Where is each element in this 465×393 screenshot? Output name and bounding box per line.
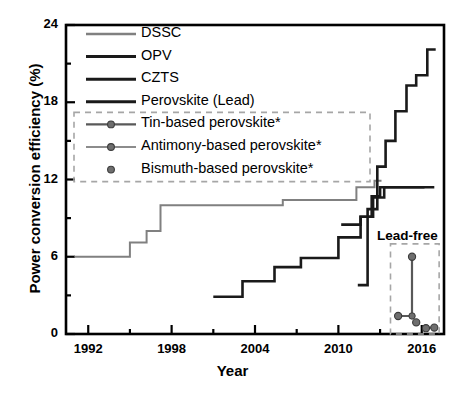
lead-free-annotation: Lead-free <box>377 228 438 243</box>
data-point-marker <box>395 312 402 319</box>
chart-figure: Power conversion efficiency (%) Year Lea… <box>0 0 465 393</box>
y-tick-label: 6 <box>14 248 58 263</box>
x-tick-label: 2010 <box>298 341 378 356</box>
legend-marker-5 <box>108 144 115 151</box>
plot-canvas <box>0 0 465 393</box>
legend-label-1: OPV <box>141 47 172 63</box>
legend-label-2: CZTS <box>141 69 179 85</box>
x-tick-label: 1992 <box>48 341 128 356</box>
legend-label-6: Bismuth-based perovskite* <box>141 160 313 176</box>
series-line-3 <box>358 50 436 286</box>
y-tick-label: 18 <box>14 93 58 108</box>
plot-frame <box>66 25 444 334</box>
x-tick-label: 1998 <box>132 341 212 356</box>
series-line-4 <box>398 257 412 316</box>
legend-label-4: Tin-based perovskite* <box>141 114 281 130</box>
data-point-marker <box>408 253 415 260</box>
data-point-marker <box>431 324 438 331</box>
data-point-marker <box>422 325 429 332</box>
x-tick-label: 2016 <box>382 341 462 356</box>
data-point-marker <box>409 313 415 319</box>
x-axis-title: Year <box>0 362 465 379</box>
data-point-marker <box>413 319 420 326</box>
x-tick-label: 2004 <box>215 341 295 356</box>
legend-label-0: DSSC <box>141 24 181 40</box>
series-line-0 <box>74 181 381 257</box>
legend-label-5: Antimony-based perovskite* <box>141 137 322 153</box>
series-line-2 <box>341 187 424 224</box>
axes-layer <box>66 25 444 334</box>
series-layer <box>74 50 438 332</box>
legend-label-3: Perovskite (Lead) <box>141 92 255 108</box>
legend-marker-4 <box>108 121 115 128</box>
y-tick-label: 0 <box>14 325 58 340</box>
y-tick-label: 12 <box>14 171 58 186</box>
legend-marker-6 <box>108 166 115 173</box>
y-tick-label: 24 <box>14 16 58 31</box>
